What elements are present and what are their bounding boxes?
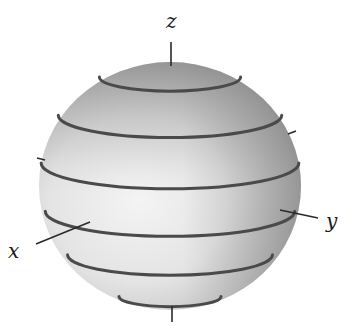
axis-label-y: y <box>325 209 338 233</box>
sphere-right-shade <box>39 62 301 310</box>
axis-label-x: x <box>8 239 19 263</box>
x-axis-negative <box>288 131 296 134</box>
axis-label-z: z <box>165 9 177 33</box>
sphere-diagram: z x y <box>0 0 349 330</box>
